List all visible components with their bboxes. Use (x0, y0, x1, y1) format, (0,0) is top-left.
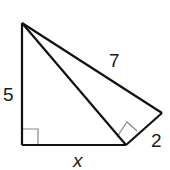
label-base: x (73, 151, 83, 170)
label-left-leg: 5 (3, 85, 14, 104)
right-angle-marker-bottom-right (117, 122, 137, 137)
geometry-diagram: 5 7 2 x (0, 0, 170, 170)
triangle-figure (0, 0, 170, 170)
diagonal-shared (22, 23, 126, 145)
label-hypotenuse: 7 (109, 51, 120, 70)
label-short-side: 2 (151, 131, 162, 150)
side-hypotenuse-7 (22, 23, 162, 113)
right-angle-marker-bottom-left (23, 129, 38, 144)
